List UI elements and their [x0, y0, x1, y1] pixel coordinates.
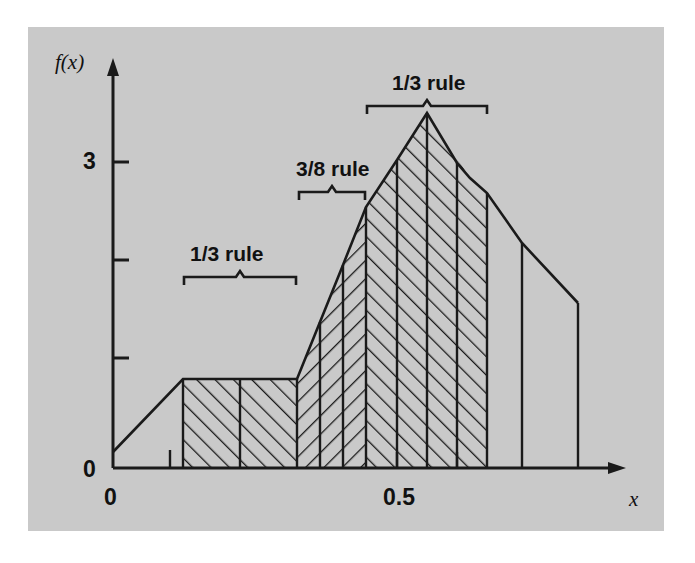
brace-label-simpson-13-left: 1/3 rule: [190, 243, 264, 264]
x-axis-label: x: [629, 489, 638, 510]
brace-simpson-13-left: [184, 271, 296, 285]
integration-diagram: [0, 0, 695, 563]
region-simpson-38-middle: [296, 200, 368, 472]
y-axis-label: f(x): [55, 52, 84, 73]
y-tick-label-0: 0: [83, 458, 96, 481]
y-axis-ticks: [113, 162, 129, 358]
x-tick-label-05: 0.5: [383, 486, 415, 509]
brace-label-simpson-13-right: 1/3 rule: [392, 72, 466, 93]
x-tick-label-0: 0: [104, 486, 117, 509]
unshaded-panel-lines: [522, 243, 578, 468]
brace-simpson-38-middle: [299, 186, 365, 200]
brace-label-simpson-38-middle: 3/8 rule: [296, 158, 370, 179]
y-tick-label-3: 3: [83, 150, 96, 173]
figure-container: f(x) 3 0 0 0.5 x 1/3 rule 3/8 rule 1/3 r…: [0, 0, 695, 563]
